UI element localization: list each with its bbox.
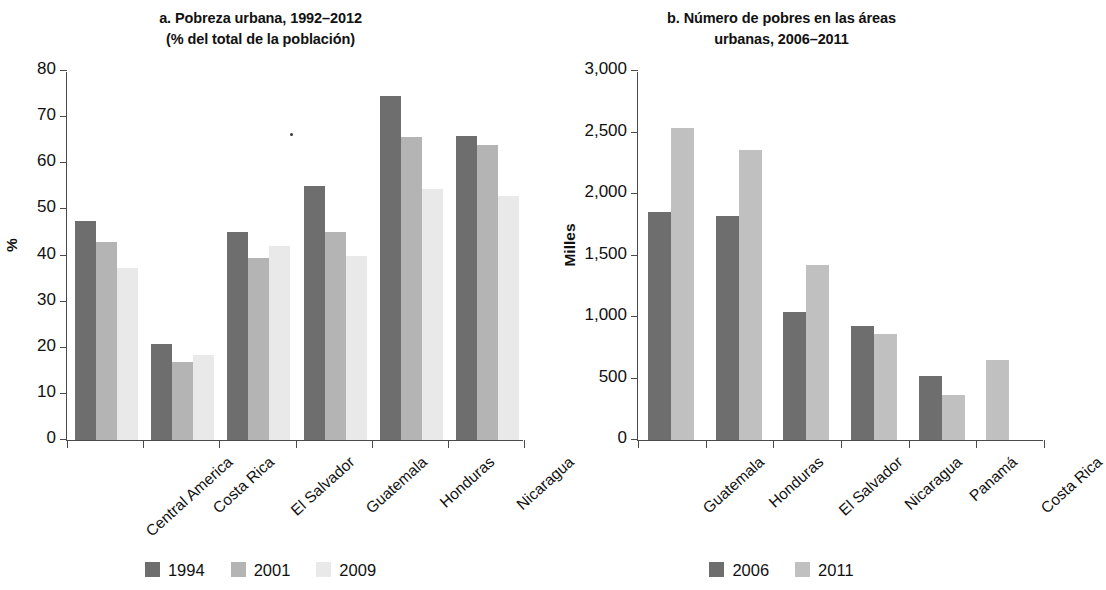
y-tick: 50: [60, 208, 67, 209]
panel-a-title-line1: a. Pobreza urbana, 1992–2012: [0, 8, 521, 29]
y-tick: 500: [631, 378, 638, 379]
y-tick: 1,000: [631, 316, 638, 317]
legend-item: 1994: [145, 562, 205, 579]
y-tick: 80: [60, 70, 67, 71]
bar-group: [909, 72, 977, 440]
bar: [806, 265, 829, 440]
x-tick-label: El Salvador: [836, 453, 907, 519]
x-tick: [143, 440, 144, 448]
y-tick-label: 60: [37, 152, 56, 169]
x-tick: [841, 440, 842, 448]
legend-label: 1994: [168, 562, 205, 579]
bar: [874, 334, 897, 440]
bar: [739, 150, 762, 440]
x-tick-label: Costa Rica: [1038, 453, 1106, 517]
legend-item: 2006: [709, 562, 769, 579]
stray-speck: [290, 133, 293, 136]
bar-group: [841, 72, 909, 440]
y-tick-label: 20: [37, 337, 56, 354]
panel-b-plot-area: GuatemalaHondurasEl SalvadorNicaraguaPan…: [637, 72, 1043, 441]
bar-group: [219, 72, 295, 440]
bar-group: [976, 72, 1044, 440]
x-tick: [219, 440, 220, 448]
bar-group: [143, 72, 219, 440]
y-tick-label: 2,000: [584, 183, 627, 200]
legend-swatch: [145, 562, 160, 577]
x-tick-label: El Salvador: [287, 453, 358, 519]
panel-a-y-axis-label: %: [3, 225, 21, 265]
y-tick-label: 0: [618, 429, 627, 446]
x-tick-label: Honduras: [765, 453, 827, 511]
y-tick-label: 80: [37, 60, 56, 77]
bar: [193, 355, 214, 440]
panel-a: a. Pobreza urbana, 1992–2012 (% del tota…: [0, 0, 521, 590]
bar: [919, 376, 942, 440]
y-tick: 3,000: [631, 70, 638, 71]
y-tick-label: 1,000: [584, 306, 627, 323]
bar: [380, 96, 401, 440]
panel-a-legend: 199420012009: [0, 562, 521, 579]
bar: [942, 395, 965, 441]
panel-b: b. Número de pobres en las áreas urbanas…: [521, 0, 1042, 590]
y-tick: 40: [60, 255, 67, 256]
bar-group: [773, 72, 841, 440]
x-tick: [909, 440, 910, 448]
y-tick: 70: [60, 116, 67, 117]
x-tick: [296, 440, 297, 448]
legend-item: 2011: [795, 562, 853, 579]
y-tick: 30: [60, 301, 67, 302]
bar-group: [372, 72, 448, 440]
bar: [477, 145, 498, 440]
y-tick: 0: [60, 439, 67, 440]
y-tick-label: 10: [37, 383, 56, 400]
bar: [671, 128, 694, 440]
bar: [346, 256, 367, 441]
x-tick-label: Guatemala: [699, 453, 767, 517]
bar: [498, 196, 519, 440]
x-tick: [448, 440, 449, 448]
y-tick: 20: [60, 347, 67, 348]
x-tick: [372, 440, 373, 448]
x-tick-label: Panamá: [965, 453, 1020, 505]
panel-a-plot-area: Central AmericaCosta RicaEl SalvadorGuat…: [66, 72, 523, 441]
panel-b-legend: 20062011: [521, 562, 1042, 579]
y-tick: 10: [60, 393, 67, 394]
legend-swatch: [795, 562, 810, 577]
bar: [401, 137, 422, 440]
bar: [648, 212, 671, 440]
legend-label: 2009: [339, 562, 376, 579]
bar-group: [67, 72, 143, 440]
legend-swatch: [231, 562, 246, 577]
bar: [986, 360, 1009, 440]
bar: [248, 258, 269, 440]
x-tick: [67, 440, 68, 448]
legend-label: 2001: [254, 562, 291, 579]
bar: [783, 312, 806, 440]
bar: [227, 232, 248, 440]
y-tick-label: 3,000: [584, 60, 627, 77]
x-tick-label: Nicaragua: [901, 453, 966, 514]
legend-item: 2009: [316, 562, 376, 579]
bar: [456, 136, 477, 440]
x-tick: [706, 440, 707, 448]
x-tick: [976, 440, 977, 448]
panel-b-title-line2: urbanas, 2006–2011: [521, 29, 1042, 50]
legend-swatch: [709, 562, 724, 577]
bar: [269, 246, 290, 440]
y-tick: 60: [60, 162, 67, 163]
x-tick: [638, 440, 639, 448]
bar: [304, 186, 325, 440]
bar: [172, 362, 193, 440]
legend-label: 2006: [732, 562, 769, 579]
bar: [151, 344, 172, 440]
y-tick-label: 50: [37, 198, 56, 215]
y-tick-label: 70: [37, 106, 56, 123]
y-tick: 2,000: [631, 193, 638, 194]
bar: [96, 242, 117, 440]
y-tick-label: 2,500: [584, 122, 627, 139]
bar-group: [638, 72, 706, 440]
x-tick: [773, 440, 774, 448]
y-tick-label: 0: [47, 429, 56, 446]
y-tick-label: 500: [599, 368, 627, 385]
